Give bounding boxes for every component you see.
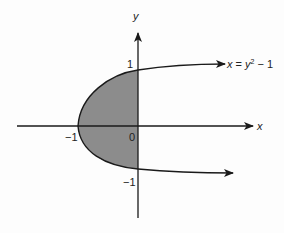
parabola-diagram: y x 1 −1 0 −1 x = y2 − 1 <box>0 0 284 233</box>
x-axis-label: x <box>256 120 263 132</box>
eq-equals: = <box>233 58 246 70</box>
tick-y-neg1: −1 <box>123 176 136 188</box>
eq-rest: − 1 <box>254 58 273 70</box>
y-axis-label: y <box>132 10 140 22</box>
tick-y-1: 1 <box>127 58 133 70</box>
tick-x-neg1: −1 <box>65 131 78 143</box>
origin-label: 0 <box>129 131 135 143</box>
equation-label: x = y2 − 1 <box>226 58 273 70</box>
shaded-region <box>78 70 138 169</box>
